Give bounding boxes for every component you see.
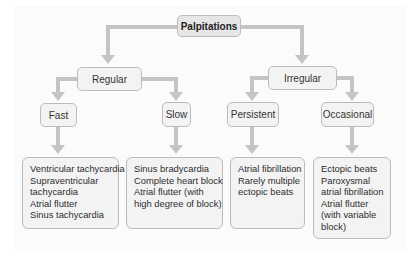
leaf-line: high degree of block) [134,198,217,210]
node-label: Persistent [231,109,275,120]
node-persistent: Persistent [227,102,279,127]
leaf-line: Ectopic beats [321,163,385,175]
arrowhead-icon [295,55,309,64]
leaf-line: Complete heart block [134,175,217,187]
arrowhead-icon [345,145,359,154]
diagram-canvas: Palpitations Regular Irregular Fast Slow… [0,0,411,255]
leaf-line: Sinus tachycardia [30,209,113,221]
leaf-line: block) [321,221,385,233]
arrowhead-icon [51,145,65,154]
leaf-line: ectopic beats [238,186,299,198]
arrow-root-to-irregular [241,27,302,55]
leaf-line: Atrial flutter (with [134,186,217,198]
node-label: Palpitations [181,21,238,32]
node-label: Regular [92,74,127,85]
leaf-fast-causes: Ventricular tachycardia Supraventricular… [22,157,119,229]
leaf-line: atrial fibrillation [321,186,385,198]
node-label: Occasional [323,109,372,120]
leaf-line: Supraventricular [30,175,113,187]
leaf-persistent-causes: Atrial fibrillation Rarely multiple ecto… [230,157,305,229]
arrow-irregular-to-persistent [252,78,268,93]
leaf-line: Rarely multiple [238,175,299,187]
arrowhead-icon [245,145,259,154]
node-irregular: Irregular [268,66,337,90]
arrowhead-icon [345,92,359,101]
leaf-line: Atrial flutter [321,198,385,210]
arrow-regular-to-slow [142,79,176,93]
node-occasional: Occasional [321,102,374,127]
leaf-line: Sinus bradycardia [134,163,217,175]
node-fast: Fast [40,103,77,127]
leaf-line: tachycardia [30,186,113,198]
leaf-line: (with variable [321,209,385,221]
node-label: Irregular [284,73,321,84]
node-label: Slow [166,109,188,120]
arrowhead-icon [245,92,259,101]
node-palpitations: Palpitations [177,15,241,37]
leaf-line: Atrial flutter [30,198,113,210]
leaf-line: Paroxysmal [321,175,385,187]
leaf-occasional-causes: Ectopic beats Paroxysmal atrial fibrilla… [313,157,391,239]
leaf-line: Ventricular tachycardia [30,163,113,175]
node-label: Fast [49,110,68,121]
arrowhead-icon [101,55,115,64]
leaf-slow-causes: Sinus bradycardia Complete heart block A… [126,157,223,229]
leaf-line: Atrial fibrillation [238,163,299,175]
node-slow: Slow [162,102,191,127]
node-regular: Regular [77,67,142,91]
arrow-root-to-regular [108,27,177,55]
arrowhead-icon [169,145,183,154]
arrow-regular-to-fast [58,79,77,93]
arrowhead-icon [51,92,65,101]
arrowhead-icon [169,92,183,101]
arrow-irregular-to-occasional [337,78,352,93]
